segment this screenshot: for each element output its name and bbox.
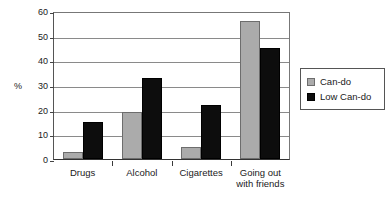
legend-label: Low Can-do	[320, 92, 371, 102]
bar	[142, 78, 162, 159]
y-tick-mark	[50, 161, 54, 162]
y-tick-label: 30	[26, 82, 48, 91]
bar	[83, 122, 103, 159]
x-axis-separator	[172, 161, 173, 166]
bar	[63, 152, 83, 159]
bar	[260, 48, 280, 159]
legend-swatch-low-can-do-icon	[307, 93, 315, 101]
bar	[240, 21, 260, 159]
bar-chart: % 0102030405060 DrugsAlcoholCigarettesGo…	[0, 0, 391, 200]
chart-legend: Can-do Low Can-do	[300, 68, 385, 110]
y-axis-title: %	[14, 81, 22, 91]
legend-swatch-can-do-icon	[307, 78, 315, 86]
bar-group	[173, 13, 232, 159]
bars-layer	[54, 13, 289, 159]
y-tick-label: 10	[26, 131, 48, 140]
bar-group	[113, 13, 172, 159]
plot-area	[53, 12, 290, 160]
legend-label: Can-do	[320, 77, 351, 87]
y-tick-label: 40	[26, 57, 48, 66]
bar-group	[232, 13, 291, 159]
bar-group	[54, 13, 113, 159]
x-axis-label: Going outwith friends	[225, 167, 296, 189]
x-axis-separator	[231, 161, 232, 166]
y-tick-label: 50	[26, 32, 48, 41]
legend-item: Low Can-do	[307, 89, 379, 104]
y-tick-label: 60	[26, 8, 48, 17]
y-axis-tick-labels: 0102030405060	[26, 0, 48, 200]
bar	[122, 112, 142, 159]
bar	[181, 147, 201, 159]
legend-item: Can-do	[307, 74, 379, 89]
y-tick-label: 0	[26, 156, 48, 165]
x-axis-separator	[112, 161, 113, 166]
y-tick-label: 20	[26, 106, 48, 115]
bar	[201, 105, 221, 159]
x-axis-label-line: with friends	[225, 178, 296, 189]
x-axis-label-line: Going out	[225, 167, 296, 178]
